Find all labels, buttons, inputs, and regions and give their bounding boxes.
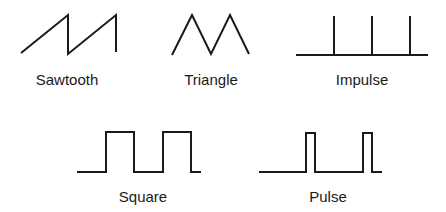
pulse-label: Pulse bbox=[309, 189, 347, 204]
impulse-label: Impulse bbox=[336, 72, 389, 87]
pulse-wave bbox=[259, 133, 382, 172]
waveform-diagram bbox=[0, 0, 446, 212]
square-label: Square bbox=[119, 189, 167, 204]
impulse-wave bbox=[296, 16, 428, 55]
triangle-wave bbox=[172, 15, 249, 55]
square-wave bbox=[77, 132, 201, 172]
sawtooth-wave bbox=[21, 15, 116, 54]
triangle-label: Triangle bbox=[184, 72, 238, 87]
sawtooth-label: Sawtooth bbox=[36, 72, 99, 87]
